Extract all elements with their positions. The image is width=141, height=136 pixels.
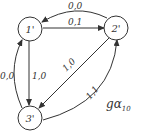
node-2: 2' bbox=[104, 16, 128, 40]
edge-label-1-3: 1,0 bbox=[32, 71, 47, 81]
state-diagram: 0,0 0,1 1,0 0,0 1,0 1,1 1' 2' 3' gα10 bbox=[0, 0, 141, 136]
edge-label-2-1: 0,0 bbox=[68, 1, 83, 11]
edge-2-to-3 bbox=[39, 38, 109, 108]
node-3: 3' bbox=[18, 106, 42, 130]
diagram-name-subscript: 10 bbox=[122, 105, 131, 113]
node-1: 1' bbox=[18, 17, 42, 41]
edge-label-3-1: 0,0 bbox=[0, 71, 15, 81]
edge-label-3-2: 1,1 bbox=[84, 84, 101, 101]
edge-label-1-2: 0,1 bbox=[68, 17, 82, 27]
diagram-name: gα10 bbox=[106, 97, 131, 113]
edge-label-2-3: 1,0 bbox=[60, 56, 77, 73]
diagram-name-main: gα bbox=[106, 97, 122, 111]
node-label-1: 1' bbox=[25, 24, 34, 35]
edge-3-to-1 bbox=[14, 40, 22, 108]
node-label-3: 3' bbox=[25, 113, 34, 124]
node-label-2: 2' bbox=[110, 23, 120, 34]
